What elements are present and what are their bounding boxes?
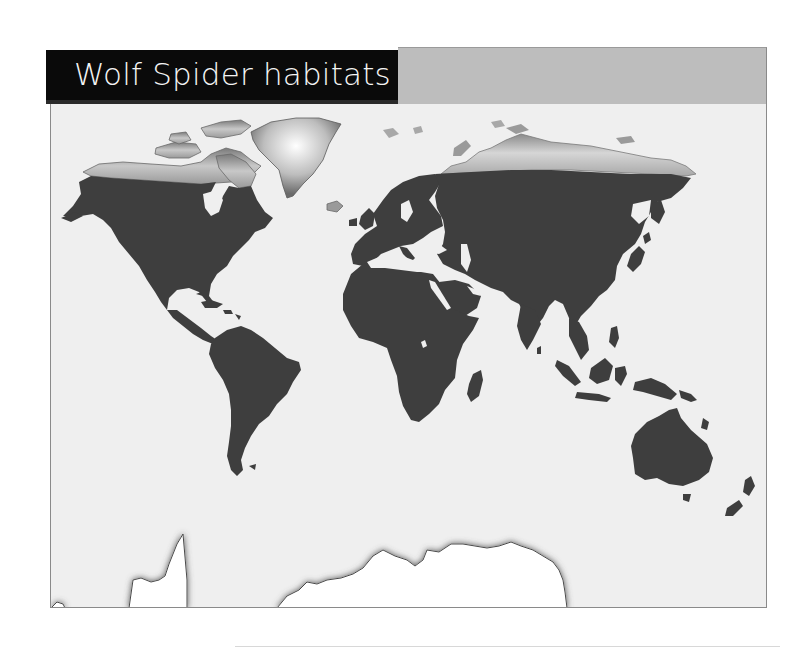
south-america	[209, 326, 301, 476]
habitat-regions	[61, 170, 755, 516]
page-bottom-rule	[235, 646, 780, 647]
map-title: Wolf Spider habitats	[74, 56, 391, 92]
central-america	[167, 310, 217, 344]
australia	[631, 408, 713, 486]
antarctica	[51, 534, 567, 608]
north-america	[63, 176, 273, 310]
world-map	[51, 104, 767, 608]
title-header-fill	[398, 47, 767, 104]
map-frame	[50, 104, 767, 608]
madagascar	[467, 370, 483, 402]
title-bar: Wolf Spider habitats	[46, 50, 398, 104]
